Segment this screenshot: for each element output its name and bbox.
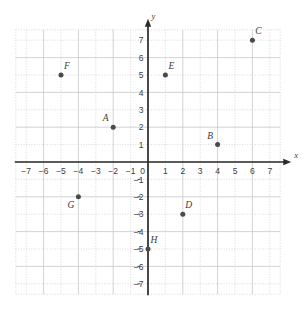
y-axis-label: y <box>151 11 156 21</box>
x-axis-tick-label: −4 <box>74 166 84 176</box>
y-axis-tick-label: 5 <box>139 70 144 80</box>
data-point-A[interactable] <box>111 125 116 130</box>
data-point-D[interactable] <box>180 212 185 217</box>
y-axis-tick-label: 4 <box>139 88 144 98</box>
y-axis-tick-label: 7 <box>139 35 144 45</box>
y-axis-tick-label: 3 <box>139 105 144 115</box>
data-point-E[interactable] <box>163 73 168 78</box>
x-axis-tick-label: −5 <box>56 166 66 176</box>
y-axis-tick-label: 2 <box>139 122 144 132</box>
data-point-label-A: A <box>102 113 109 123</box>
y-axis-arrowhead <box>145 19 151 27</box>
data-point-label-C: C <box>255 26 262 36</box>
x-axis-arrowhead <box>283 159 291 165</box>
x-axis-tick-label: −2 <box>108 166 118 176</box>
data-point-C[interactable] <box>250 38 255 43</box>
x-axis-tick-label: 1 <box>163 166 168 176</box>
x-axis-tick-label: −6 <box>39 166 49 176</box>
x-axis-tick-label: −3 <box>91 166 101 176</box>
data-point-label-H: H <box>150 235 159 245</box>
x-axis-tick-label: 6 <box>250 166 255 176</box>
x-axis-tick-label: −7 <box>21 166 31 176</box>
x-axis-tick-label: 4 <box>215 166 220 176</box>
data-point-label-F: F <box>63 61 70 71</box>
coordinate-plane-svg: −7−6−5−4−3−2−101234567−7−6−5−4−3−2−11234… <box>0 0 303 315</box>
x-axis-label: x <box>293 150 298 160</box>
data-point-H[interactable] <box>146 247 151 252</box>
data-point-label-B: B <box>207 131 213 141</box>
y-axis-tick-label: 1 <box>139 140 144 150</box>
data-point-B[interactable] <box>215 142 220 147</box>
data-point-G[interactable] <box>76 194 81 199</box>
data-point-label-D: D <box>184 200 192 210</box>
y-axis-tick-label: 6 <box>139 53 144 63</box>
coordinate-plane: −7−6−5−4−3−2−101234567−7−6−5−4−3−2−11234… <box>0 0 303 315</box>
x-axis-tick-label: 7 <box>267 166 272 176</box>
data-point-label-E: E <box>167 61 174 71</box>
x-axis-tick-label: 5 <box>233 166 238 176</box>
data-point-F[interactable] <box>59 73 64 78</box>
x-axis-tick-label: 3 <box>198 166 203 176</box>
data-point-label-G: G <box>67 200 74 210</box>
x-axis-tick-label: 2 <box>180 166 185 176</box>
